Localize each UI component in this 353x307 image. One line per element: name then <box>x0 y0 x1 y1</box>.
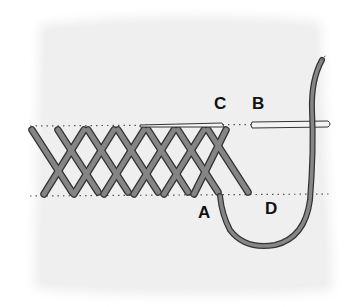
label-b: B <box>252 95 264 112</box>
fabric-swatch <box>35 17 332 295</box>
label-d: D <box>265 200 277 217</box>
diagram-illustration <box>0 0 353 307</box>
needle-right <box>251 121 330 128</box>
label-a: A <box>198 204 210 221</box>
herringbone-stitch-diagram: C B A D <box>0 0 353 307</box>
label-c: C <box>214 95 226 112</box>
